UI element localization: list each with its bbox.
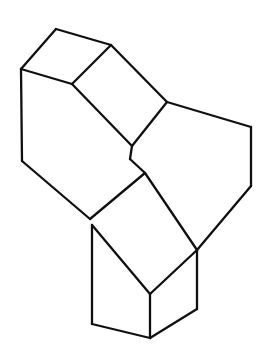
drawing-canvas (0, 0, 274, 362)
edge-left-vertical (21, 69, 22, 161)
isometric-block-figure (0, 0, 274, 362)
